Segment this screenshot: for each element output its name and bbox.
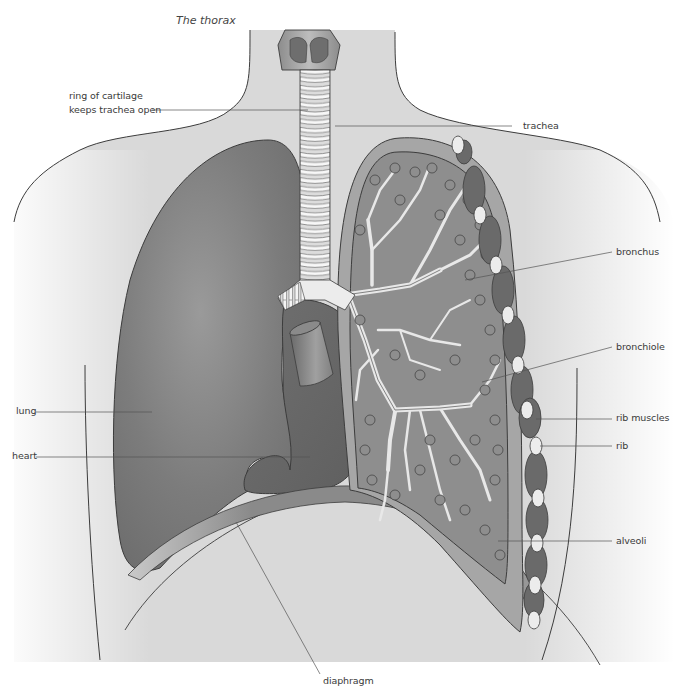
thorax-diagram: The thorax — [0, 0, 674, 692]
label-bronchiole: bronchiole — [616, 341, 665, 353]
larynx — [278, 30, 340, 70]
label-ring-of-cartilage: ring of cartilage — [69, 90, 143, 102]
label-bronchus: bronchus — [616, 246, 659, 258]
label-alveoli: alveoli — [616, 535, 646, 547]
label-heart: heart — [12, 450, 37, 462]
label-rib: rib — [616, 440, 628, 452]
label-trachea: trachea — [523, 120, 559, 132]
trachea — [300, 70, 330, 285]
label-rib-muscles: rib muscles — [616, 412, 669, 424]
label-diaphragm: diaphragm — [323, 675, 374, 687]
label-lung: lung — [16, 405, 36, 417]
label-keeps-trachea-open: keeps trachea open — [69, 104, 161, 116]
